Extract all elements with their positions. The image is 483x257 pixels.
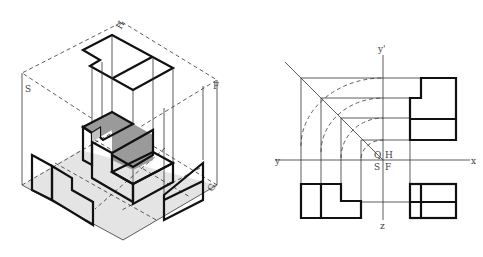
- label-h-plane: H: [114, 19, 127, 31]
- isometric-projection-box: H S F G: [22, 19, 219, 240]
- transfer-arc-2: [321, 98, 383, 152]
- label-s-plane: S: [25, 84, 31, 94]
- quadrant-label-f: F: [385, 162, 391, 172]
- label-f-plane: F: [213, 81, 219, 91]
- orthographic-projection: y x y' z Q H S F: [274, 44, 476, 231]
- side-view: [301, 184, 361, 218]
- top-view-divider: [113, 57, 152, 78]
- quadrant-label-q: Q: [374, 150, 381, 160]
- top-view-projection: [83, 35, 173, 90]
- axis-label-y-prime: y': [377, 44, 386, 54]
- axis-label-z: z: [380, 221, 385, 231]
- diagram-canvas: H S F G: [0, 0, 483, 257]
- top-view: [410, 78, 456, 140]
- axis-label-x: x: [471, 156, 476, 166]
- axis-label-y: y: [274, 156, 281, 166]
- quadrant-label-s: S: [374, 162, 380, 172]
- quadrant-label-h: H: [385, 150, 393, 160]
- label-g-plane: G: [206, 182, 218, 193]
- transfer-arc-1: [301, 78, 383, 146]
